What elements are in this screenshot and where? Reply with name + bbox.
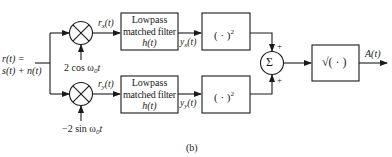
sum-top-sign: + <box>277 40 282 52</box>
input-label-line1: r(t) = <box>2 53 25 65</box>
filter-top-output-label: yx(t) <box>180 36 196 51</box>
mixer-top-output-label: rx(t) <box>98 17 114 32</box>
oscillator-top-label: 2 cos ω0t <box>64 62 100 77</box>
oscillator-bottom-label: −2 sin ω0t <box>62 123 102 138</box>
square-bottom-label: ( · )2 <box>214 88 234 103</box>
mixer-bottom-output-label: ry(t) <box>98 78 114 93</box>
sqrt-label: √( · ) <box>322 56 347 68</box>
figure-caption: (b) <box>186 142 198 154</box>
sum-bottom-sign: + <box>277 74 282 86</box>
filter-bottom-output-label: yy(t) <box>180 97 196 112</box>
filter-bottom-label: Lowpass matched filter h(t) <box>121 77 178 112</box>
square-top-label: ( · )2 <box>214 26 234 41</box>
input-label-line2: s(t) + n(t) <box>2 65 42 77</box>
output-label: A(t) <box>365 48 381 60</box>
sigma-icon: Σ <box>266 56 273 68</box>
filter-top-label: Lowpass matched filter h(t) <box>121 14 178 49</box>
diagram-wiring <box>0 0 392 157</box>
